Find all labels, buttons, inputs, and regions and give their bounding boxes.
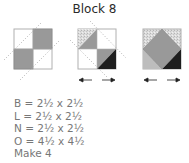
step-3-finished-unit	[143, 29, 181, 82]
spec-line-o: O = 4½ x 4½	[14, 135, 84, 148]
spec-line-n: N = 2½ x 2½	[14, 122, 84, 135]
spec-line-l: L = 2½ x 2½	[14, 110, 84, 123]
spec-line-b: B = 2½ x 2½	[14, 97, 84, 110]
press-arrows	[79, 78, 115, 82]
press-arrows	[144, 78, 180, 82]
block-diagram	[0, 0, 189, 95]
make-count: Make 4	[14, 147, 84, 160]
cutting-specs: B = 2½ x 2½ L = 2½ x 2½ N = 2½ x 2½ O = …	[14, 97, 84, 160]
step-1-four-patch	[4, 22, 60, 80]
step-2-stitch-and-flip	[70, 21, 126, 82]
